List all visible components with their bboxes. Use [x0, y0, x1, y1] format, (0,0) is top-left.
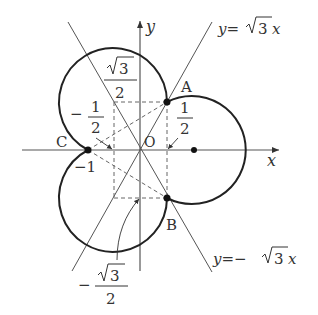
svg-text:3: 3 — [258, 20, 268, 38]
svg-text:1: 1 — [91, 98, 101, 116]
point-a — [164, 99, 171, 106]
point-b — [164, 195, 171, 202]
svg-text:y=: y= — [217, 20, 239, 38]
label-neg-sqrt3-over-2: − 3 2 — [78, 264, 128, 308]
svg-text:x: x — [272, 20, 281, 38]
line-y-sqrt3-x — [72, 22, 212, 271]
point-c-label: C — [56, 133, 67, 151]
label-y-sqrt3-x: y= 3 x — [217, 17, 281, 38]
svg-text:2: 2 — [106, 290, 116, 308]
label-neg-half: − 1 2 — [70, 98, 104, 137]
svg-text:3: 3 — [274, 250, 284, 268]
svg-text:−: − — [78, 276, 91, 294]
svg-text:2: 2 — [115, 84, 125, 102]
y-axis-label: y — [145, 17, 156, 36]
point-a-label: A — [180, 78, 192, 96]
svg-text:2: 2 — [180, 120, 190, 138]
svg-text:y=−: y=− — [212, 250, 247, 268]
svg-text:−: − — [70, 105, 83, 123]
x-axis-label: x — [267, 151, 276, 170]
arrow-neg-half — [96, 138, 112, 149]
svg-text:3: 3 — [119, 60, 129, 78]
diagram-canvas: y x O A B C y= 3 x y=− 3 x 3 2 − 1 2 1 2… — [0, 0, 318, 315]
origin-label: O — [144, 134, 155, 150]
svg-text:1: 1 — [180, 99, 190, 117]
point-c — [85, 147, 92, 154]
center-right-circle — [191, 147, 197, 153]
svg-text:3: 3 — [110, 267, 120, 285]
arrow-half — [168, 138, 178, 149]
label-y-neg-sqrt3-x: y=− 3 x — [212, 247, 297, 268]
label-sqrt3-over-2: 3 2 — [104, 57, 137, 102]
svg-text:x: x — [288, 250, 297, 268]
point-b-label: B — [166, 216, 177, 234]
label-neg-one: −1 — [74, 158, 96, 176]
svg-text:2: 2 — [91, 119, 101, 137]
label-half: 1 2 — [177, 99, 193, 138]
